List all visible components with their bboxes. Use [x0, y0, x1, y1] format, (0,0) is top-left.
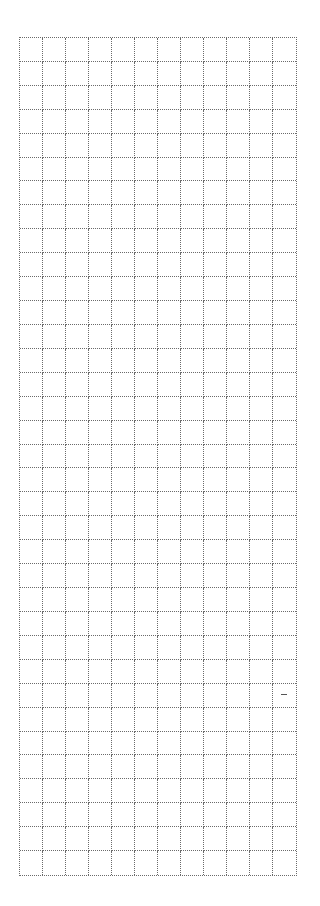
grid-cell	[227, 755, 250, 779]
grid-cell	[20, 660, 43, 684]
grid-cell	[227, 636, 250, 660]
grid-cell	[158, 588, 181, 612]
grid-cell	[181, 540, 204, 564]
grid-cell	[158, 349, 181, 373]
grid-cell	[273, 373, 296, 397]
grid-cell	[20, 253, 43, 277]
grid-cell	[227, 86, 250, 110]
grid-cell	[181, 62, 204, 86]
grid-cell	[158, 62, 181, 86]
grid-cell	[227, 468, 250, 492]
grid-cell	[181, 684, 204, 708]
grid-cell	[66, 62, 89, 86]
grid-cell	[66, 851, 89, 875]
grid-cell	[135, 62, 158, 86]
grid-cell	[112, 301, 135, 325]
grid-cell	[112, 62, 135, 86]
grid-cell	[227, 62, 250, 86]
grid-cell	[204, 397, 227, 421]
grid-cell	[89, 62, 112, 86]
grid-cell	[273, 468, 296, 492]
grid-cell	[20, 636, 43, 660]
grid-cell	[112, 564, 135, 588]
grid-cell	[112, 708, 135, 732]
grid-cell	[112, 181, 135, 205]
grid-cell	[181, 516, 204, 540]
grid-cell	[135, 612, 158, 636]
grid-cell	[204, 612, 227, 636]
grid-cell	[181, 564, 204, 588]
grid-cell	[20, 349, 43, 373]
grid-cell	[273, 301, 296, 325]
grid-cell	[158, 516, 181, 540]
grid-cell	[20, 229, 43, 253]
grid-cell	[204, 732, 227, 756]
grid-cell	[227, 660, 250, 684]
grid-cell	[20, 588, 43, 612]
grid-cell	[89, 110, 112, 134]
grid-cell	[20, 62, 43, 86]
grid-cell	[135, 158, 158, 182]
grid-cell	[89, 445, 112, 469]
grid-cell	[273, 755, 296, 779]
grid-cell	[20, 445, 43, 469]
grid-cell	[273, 516, 296, 540]
grid-cell	[20, 612, 43, 636]
grid-cell	[43, 181, 66, 205]
grid-cell	[181, 38, 204, 62]
grid-cell	[158, 325, 181, 349]
grid-cell	[158, 468, 181, 492]
grid-cell	[227, 732, 250, 756]
grid-cell	[227, 277, 250, 301]
grid-cell	[250, 181, 273, 205]
grid-cell	[89, 492, 112, 516]
grid-cell	[250, 134, 273, 158]
grid-cell	[204, 134, 227, 158]
grid-cell	[273, 445, 296, 469]
stray-dash-mark	[281, 694, 287, 695]
grid-cell	[204, 110, 227, 134]
grid-cell	[43, 564, 66, 588]
grid-cell	[227, 205, 250, 229]
grid-cell	[135, 325, 158, 349]
grid-cell	[20, 468, 43, 492]
grid-cell	[43, 349, 66, 373]
grid-cell	[89, 229, 112, 253]
grid-cell	[135, 636, 158, 660]
grid-cell	[43, 421, 66, 445]
grid-cell	[112, 158, 135, 182]
grid-cell	[112, 636, 135, 660]
grid-cell	[89, 301, 112, 325]
grid-cell	[43, 540, 66, 564]
grid-cell	[273, 277, 296, 301]
grid-cell	[181, 205, 204, 229]
grid-cell	[66, 134, 89, 158]
grid-cell	[227, 110, 250, 134]
grid-cell	[89, 181, 112, 205]
grid-cell	[227, 38, 250, 62]
grid-cell	[135, 468, 158, 492]
grid-cell	[89, 564, 112, 588]
grid-cell	[250, 660, 273, 684]
grid-cell	[43, 373, 66, 397]
grid-cell	[89, 660, 112, 684]
grid-cell	[89, 684, 112, 708]
grid-cell	[112, 205, 135, 229]
grid-cell	[135, 421, 158, 445]
grid-cell	[20, 684, 43, 708]
grid-cell	[158, 38, 181, 62]
grid-cell	[273, 492, 296, 516]
grid-cell	[20, 325, 43, 349]
grid-cell	[250, 349, 273, 373]
grid-cell	[204, 277, 227, 301]
grid-cell	[66, 755, 89, 779]
grid-cell	[250, 612, 273, 636]
grid-cell	[273, 612, 296, 636]
grid-cell	[181, 421, 204, 445]
grid-cell	[158, 755, 181, 779]
grid-cell	[66, 397, 89, 421]
grid-cell	[273, 38, 296, 62]
grid-cell	[250, 325, 273, 349]
grid-cell	[66, 445, 89, 469]
grid-cell	[227, 540, 250, 564]
